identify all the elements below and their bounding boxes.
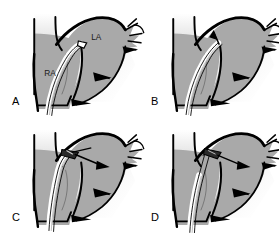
label-la: LA — [91, 33, 102, 42]
panel-a: RA LA A — [12, 13, 144, 115]
panel-letter-a: A — [12, 95, 20, 107]
panel-c: C — [12, 129, 144, 231]
transseptal-illustration: RA LA A B — [0, 0, 279, 233]
panel-d: D — [151, 129, 279, 233]
panel-letter-d: D — [151, 211, 159, 223]
figure-container: RA LA A B — [0, 0, 279, 233]
panel-letter-c: C — [12, 211, 20, 223]
panel-letter-b: B — [151, 95, 158, 107]
label-ra: RA — [44, 69, 56, 78]
panel-b: B — [151, 13, 279, 115]
